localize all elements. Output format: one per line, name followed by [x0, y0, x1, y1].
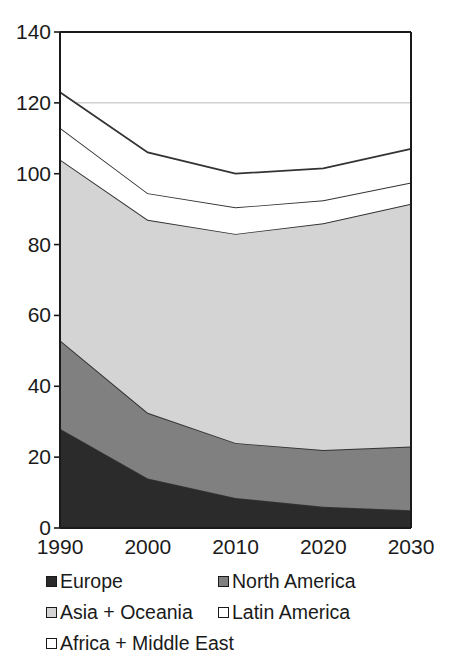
legend-row-2: Asia + Oceania Latin America	[46, 603, 446, 634]
chart-plot-area: 02040608010012014019902000201020202030	[0, 0, 450, 560]
svg-text:80: 80	[28, 233, 51, 256]
legend-label-north-america: North America	[232, 572, 356, 592]
legend-row-1: Europe North America	[46, 572, 446, 603]
legend-item-asia-oceania[interactable]: Asia + Oceania	[46, 603, 218, 623]
svg-text:120: 120	[16, 91, 51, 114]
legend-label-latin-america: Latin America	[232, 603, 350, 623]
svg-text:1990: 1990	[37, 535, 84, 558]
svg-text:2030: 2030	[388, 535, 435, 558]
svg-text:2020: 2020	[300, 535, 347, 558]
legend-label-asia-oceania: Asia + Oceania	[60, 603, 193, 623]
svg-text:100: 100	[16, 162, 51, 185]
legend-row-3: Africa + Middle East	[46, 634, 446, 665]
legend-swatch-africa-middle-east	[46, 638, 57, 649]
legend-item-latin-america[interactable]: Latin America	[218, 603, 350, 623]
legend-swatch-north-america	[218, 576, 229, 587]
svg-text:2010: 2010	[212, 535, 259, 558]
legend-swatch-europe	[46, 576, 57, 587]
legend-swatch-latin-america	[218, 607, 229, 618]
legend-label-africa-middle-east: Africa + Middle East	[60, 634, 234, 654]
chart-legend: Europe North America Asia + Oceania Lati…	[46, 572, 446, 665]
legend-item-north-america[interactable]: North America	[218, 572, 356, 592]
svg-text:20: 20	[28, 445, 51, 468]
svg-text:2000: 2000	[124, 535, 171, 558]
legend-item-europe[interactable]: Europe	[46, 572, 218, 592]
legend-item-africa-middle-east[interactable]: Africa + Middle East	[46, 634, 234, 654]
legend-swatch-asia-oceania	[46, 607, 57, 618]
svg-text:140: 140	[16, 20, 51, 43]
stacked-area-chart: 02040608010012014019902000201020202030 E…	[0, 0, 450, 667]
svg-text:40: 40	[28, 374, 51, 397]
legend-label-europe: Europe	[60, 572, 123, 592]
svg-text:60: 60	[28, 303, 51, 326]
